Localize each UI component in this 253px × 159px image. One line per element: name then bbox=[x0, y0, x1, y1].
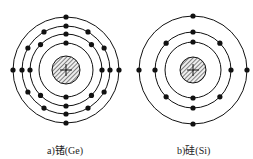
caption-silicon: b)硅(Si) bbox=[177, 142, 210, 157]
atom-diagrams bbox=[0, 0, 253, 159]
caption-germanium: a)锗(Ge) bbox=[47, 142, 83, 157]
